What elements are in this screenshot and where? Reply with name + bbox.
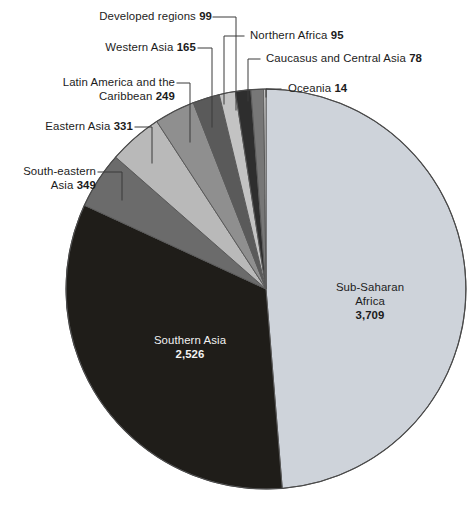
callout-latin-america-caribbean: Latin America and the Caribbean 249 (0, 76, 175, 103)
callout-south-eastern-asia: South-eastern Asia 349 (0, 165, 96, 192)
callout-latin-america-line2-wrap: Caribbean 249 (0, 90, 175, 104)
callout-eastern-asia-name: Eastern Asia (45, 120, 110, 132)
inslice-label-sub-saharan-africa: Sub-Saharan Africa 3,709 (310, 281, 430, 322)
callout-latin-america-value: 249 (156, 90, 175, 102)
callout-northern-africa-name: Northern Africa (250, 29, 327, 41)
callout-northern-africa: Northern Africa 95 (250, 29, 344, 43)
inslice-southern-asia-line1: Southern Asia (125, 334, 255, 348)
callout-developed-regions: Developed regions 99 (0, 10, 212, 24)
callout-south-eastern-asia-line2: Asia (51, 179, 74, 191)
callout-developed-regions-value: 99 (199, 10, 212, 22)
inslice-label-southern-asia: Southern Asia 2,526 (125, 334, 255, 362)
callout-oceania: Oceania 14 (288, 82, 347, 96)
callout-eastern-asia: Eastern Asia 331 (0, 120, 133, 134)
callout-latin-america-line2: Caribbean (99, 90, 152, 102)
callout-oceania-name: Oceania (288, 82, 331, 94)
callout-eastern-asia-value: 331 (114, 120, 133, 132)
inslice-sub-saharan-line1: Sub-Saharan (310, 281, 430, 295)
inslice-sub-saharan-line2: Africa (310, 295, 430, 309)
pie-chart-figure: Developed regions 99 Northern Africa 95 … (0, 0, 476, 509)
callout-south-eastern-asia-value: 349 (77, 179, 96, 191)
callout-south-eastern-asia-line2-wrap: Asia 349 (0, 179, 96, 193)
callout-western-asia-name: Western Asia (105, 41, 173, 53)
callout-caucasus-central-asia-name: Caucasus and Central Asia (266, 52, 406, 64)
callout-latin-america-line1: Latin America and the (0, 76, 175, 90)
callout-developed-regions-name: Developed regions (99, 10, 196, 22)
callout-caucasus-central-asia: Caucasus and Central Asia 78 (266, 52, 422, 66)
callout-oceania-value: 14 (334, 82, 347, 94)
callout-northern-africa-value: 95 (331, 29, 344, 41)
callout-caucasus-central-asia-value: 78 (409, 52, 422, 64)
callout-western-asia: Western Asia 165 (0, 41, 196, 55)
callout-western-asia-value: 165 (177, 41, 196, 53)
inslice-sub-saharan-value: 3,709 (355, 309, 384, 321)
inslice-southern-asia-value: 2,526 (175, 348, 204, 360)
callout-south-eastern-asia-line1: South-eastern (0, 165, 96, 179)
